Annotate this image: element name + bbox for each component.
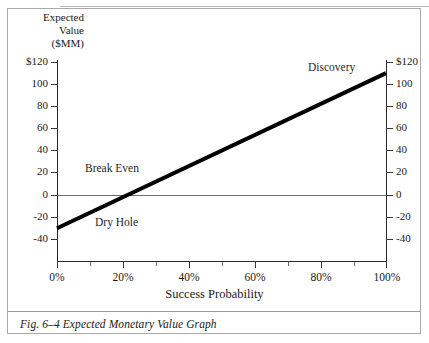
emv-line-series (0, 0, 429, 311)
annotation-break-even: Break Even (85, 162, 139, 174)
expected-monetary-value-chart: Expected Value ($MM) $120 100 80 60 40 2… (0, 0, 429, 311)
annotation-discovery: Discovery (308, 61, 355, 73)
x-axis-title: Success Probability (0, 287, 429, 302)
annotation-dry-hole: Dry Hole (95, 216, 138, 228)
figure-page: Expected Value ($MM) $120 100 80 60 40 2… (0, 0, 429, 343)
caption-divider (8, 311, 420, 312)
figure-caption: Fig. 6–4 Expected Monetary Value Graph (20, 318, 217, 330)
